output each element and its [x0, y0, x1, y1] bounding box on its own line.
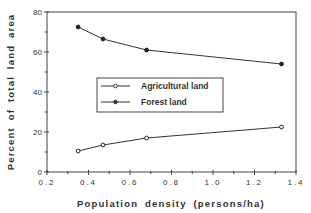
legend-label-forest: Forest land	[141, 97, 187, 107]
filled-circle-marker-icon	[280, 62, 284, 66]
y-tick-label: 40	[33, 88, 42, 97]
series-line	[78, 127, 281, 151]
filled-circle-marker-icon	[114, 100, 118, 104]
open-circle-marker-icon	[76, 149, 80, 153]
series-line	[78, 27, 281, 64]
x-tick-label: 0.4	[80, 178, 97, 187]
series-forest-land	[76, 25, 283, 66]
x-tick-label: 1.0	[204, 178, 221, 187]
filled-circle-marker-icon	[76, 25, 80, 29]
y-tick-label: 20	[33, 128, 42, 137]
open-circle-marker-icon	[280, 125, 284, 129]
x-tick-label: 1.4	[287, 178, 304, 187]
legend-label-agricultural: Agricultural land	[141, 81, 209, 91]
y-tick-label: 60	[33, 48, 42, 57]
y-tick-label: 80	[33, 8, 42, 17]
x-axis: 0.20.40.60.81.01.21.4	[38, 170, 304, 187]
x-tick-label: 0.8	[163, 178, 180, 187]
x-tick-label: 1.2	[246, 178, 263, 187]
x-axis-title: Population density (persons/ha)	[77, 198, 265, 209]
open-circle-marker-icon	[114, 84, 118, 88]
x-tick-label: 0.2	[38, 178, 55, 187]
filled-circle-marker-icon	[145, 48, 149, 52]
filled-circle-marker-icon	[101, 37, 105, 41]
legend: Agricultural land Forest land	[97, 78, 223, 112]
y-axis-title: Percent of total land area	[5, 14, 16, 171]
y-tick-label: 0	[38, 168, 43, 177]
open-circle-marker-icon	[145, 136, 149, 140]
x-tick-label: 0.6	[121, 178, 138, 187]
series-agricultural-land	[76, 125, 283, 153]
line-chart: 020406080 0.20.40.60.81.01.21.4 Agricult…	[0, 0, 311, 213]
open-circle-marker-icon	[101, 143, 105, 147]
